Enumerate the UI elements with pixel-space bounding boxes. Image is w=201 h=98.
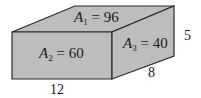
front-face-label: A2 = 60	[38, 45, 84, 63]
side-face-label: A3 = 40	[122, 35, 168, 53]
height-label: 5	[184, 28, 191, 43]
length-label: 12	[50, 82, 64, 97]
prism-svg: A1 = 96 A2 = 60 A3 = 40 12 8 5	[0, 0, 201, 98]
box-diagram: A1 = 96 A2 = 60 A3 = 40 12 8 5	[0, 0, 201, 98]
depth-label: 8	[148, 65, 155, 80]
top-face-label: A1 = 96	[73, 9, 119, 27]
